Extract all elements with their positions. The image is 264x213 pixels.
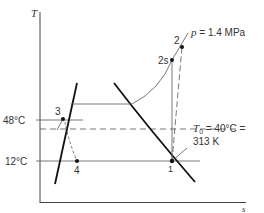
state-point-4 (75, 159, 79, 163)
t-axis-label: T (31, 7, 38, 19)
state-label-2: 2 (174, 35, 180, 46)
state-point-2 (180, 45, 184, 49)
actual-compression-1-2 (172, 47, 182, 161)
pressure-label: p = 1.4 MPa (190, 26, 246, 38)
saturated-vapor-curve (114, 83, 195, 182)
state-point-3 (61, 117, 65, 121)
state-label-2s: 2s (158, 55, 169, 66)
ambient-kelvin-label: 313 K (193, 136, 219, 147)
state-point-2s (170, 58, 174, 62)
s-axis-label: s (242, 204, 246, 213)
state-label-4: 4 (74, 165, 80, 176)
superheat-curve (172, 148, 187, 161)
label-12c: 12°C (5, 156, 27, 167)
state-label-3: 3 (55, 106, 61, 117)
label-48c: 48°C (3, 115, 25, 126)
state-point-1 (170, 159, 174, 163)
ts-diagram: T s 48°C 12°C 1 2 2s 3 4 p = 1.4 MPa T0 … (0, 0, 264, 213)
isobar-1-4mpa (132, 33, 188, 104)
state-label-1: 1 (168, 164, 173, 174)
ambient-label: T0 = 40°C = (193, 122, 246, 135)
